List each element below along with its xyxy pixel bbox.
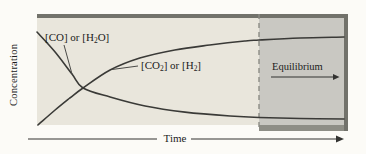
product-curve xyxy=(38,37,344,125)
reactant-curve-label: [CO] or [H2O] xyxy=(45,31,109,47)
product-curve-label: [CO2] or [H2] xyxy=(141,59,201,75)
equilibrium-figure: Concentration [CO] or [H2O] [CO2] or [H2… xyxy=(0,0,366,154)
x-axis-label: Time xyxy=(158,132,192,144)
y-axis-label: Concentration xyxy=(6,32,21,118)
equilibrium-arrow xyxy=(271,74,340,80)
equilibrium-label: Equilibrium xyxy=(272,60,323,73)
chart-canvas xyxy=(0,0,366,154)
